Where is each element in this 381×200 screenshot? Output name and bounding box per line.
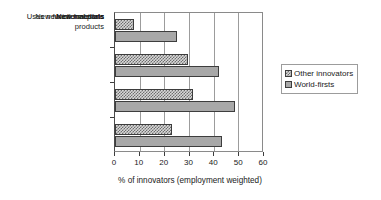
x-axis-tick-10 [139,152,140,156]
bar-world-firsts-uses-new-intermediate-products [115,31,177,42]
bar-world-firsts-new-functions [115,66,219,77]
gridline-30 [189,13,190,151]
x-axis-ticklabel-0: 0 [102,158,126,167]
legend-swatch-world-firsts-icon [285,81,292,88]
x-axis-tick-30 [189,152,190,156]
legend-swatch-other-innovators-icon [285,70,292,77]
x-axis-ticklabel-40: 40 [201,158,225,167]
gridline-40 [214,13,215,151]
bar-other-innovators-new-materials [115,89,193,100]
legend-item-other-innovators: Other innovators [285,68,353,79]
x-axis-tick-20 [164,152,165,156]
bar-chart: Uses new intermediate products New funct… [0,0,381,200]
x-axis-ticklabel-50: 50 [226,158,250,167]
legend-item-world-firsts: World-firsts [285,79,353,90]
x-axis-ticklabel-10: 10 [127,158,151,167]
bar-other-innovators-uses-new-intermediate-products [115,19,134,30]
chart-legend: Other innovators World-firsts [281,64,358,94]
x-axis-tick-50 [238,152,239,156]
bar-other-innovators-new-functions [115,54,188,65]
legend-label-other-innovators: Other innovators [294,68,353,79]
plot-area [114,12,263,152]
x-axis-ticklabel-20: 20 [152,158,176,167]
x-axis-ticklabel-30: 30 [177,158,201,167]
gridline-50 [238,13,239,151]
x-axis-ticklabel-60: 60 [251,158,275,167]
legend-label-world-firsts: World-firsts [294,79,334,90]
bar-world-firsts-new-materials [115,101,235,112]
y-axis-category-labels: Uses new intermediate products New funct… [0,12,108,152]
bar-other-innovators-new-functional-parts [115,124,172,135]
bar-world-firsts-new-functional-parts [115,136,222,147]
x-axis-tick-40 [213,152,214,156]
x-axis-tick-0 [114,152,115,156]
x-axis-tick-60 [263,152,264,156]
x-axis-title: % of innovators (employment weighted) [60,176,320,185]
y-axis-label-new-functional-parts: New functional parts [0,12,104,22]
